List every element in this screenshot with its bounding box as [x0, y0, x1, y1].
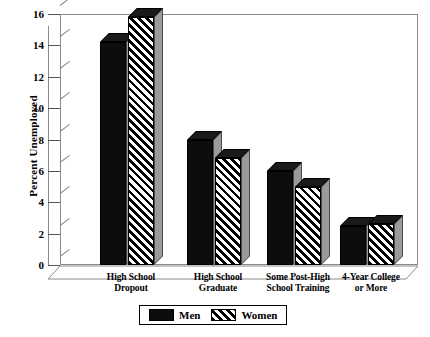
- plot-area: [60, 14, 418, 265]
- legend-item-women: Women: [211, 309, 277, 321]
- y-tick-label-10: 10: [14, 103, 44, 114]
- category-label-0: High SchoolDropout: [83, 272, 179, 294]
- legend-label-women: Women: [241, 309, 277, 321]
- category-label-line: or More: [323, 283, 419, 294]
- y-tick-2: [48, 234, 60, 235]
- y-axis-line: [48, 26, 49, 265]
- y-tick-0: [48, 265, 60, 266]
- y-tick-label-16: 16: [14, 9, 44, 20]
- chart-legend: Men Women: [139, 305, 287, 325]
- category-label-3: 4-Year Collegeor More: [323, 272, 419, 294]
- legend-item-men: Men: [149, 309, 200, 321]
- category-label-line: 4-Year College: [323, 272, 419, 283]
- y-tick-10: [48, 108, 60, 109]
- y-tick-label-12: 12: [14, 72, 44, 83]
- y-tick-label-6: 6: [14, 166, 44, 177]
- bar-chart: Percent Unemployed 0246810121416 High Sc…: [0, 0, 430, 337]
- y-tick-8: [48, 140, 60, 141]
- legend-label-men: Men: [179, 309, 200, 321]
- y-tick-label-2: 2: [14, 229, 44, 240]
- y-tick-depth-16: [60, 0, 70, 6]
- y-tick-label-8: 8: [14, 135, 44, 146]
- y-tick-16: [48, 14, 60, 15]
- category-label-line: Dropout: [83, 283, 179, 294]
- y-tick-12: [48, 77, 60, 78]
- y-tick-4: [48, 202, 60, 203]
- y-tick-6: [48, 171, 60, 172]
- y-tick-label-4: 4: [14, 197, 44, 208]
- y-tick-label-0: 0: [14, 260, 44, 271]
- legend-swatch-women-icon: [211, 309, 236, 321]
- y-tick-14: [48, 45, 60, 46]
- y-tick-label-14: 14: [14, 40, 44, 51]
- legend-swatch-men-icon: [149, 309, 174, 321]
- category-label-line: High School: [83, 272, 179, 283]
